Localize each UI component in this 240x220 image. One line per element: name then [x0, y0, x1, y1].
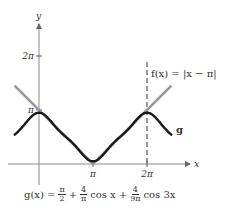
x-axis-label: x — [194, 159, 199, 169]
fraction-denominator: 2 — [59, 195, 64, 203]
series-g-line — [15, 113, 172, 162]
x-tick-label: π — [89, 169, 97, 179]
y-tick-label: 2π — [21, 51, 35, 61]
series-f-line — [15, 86, 172, 164]
f-label: f(x) = |x − π| — [151, 68, 217, 79]
plus-sign: + — [69, 189, 77, 200]
cos-3x-term: cos 3x — [143, 189, 175, 200]
fraction-4-over-9pi: 4 9π — [130, 186, 140, 203]
g-label: g — [176, 124, 183, 135]
formula-lhs: g(x) = — [24, 189, 55, 200]
fraction-denominator: π — [81, 195, 86, 203]
fraction-4-over-pi: 4 π — [80, 186, 87, 203]
y-axis-label: y — [35, 11, 42, 21]
fraction-pi-over-2: π 2 — [58, 186, 65, 203]
plus-sign: + — [119, 189, 127, 200]
cos-term: cos x — [90, 189, 116, 200]
fraction-denominator: 9π — [130, 195, 140, 203]
g-formula: g(x) = π 2 + 4 π cos x + 4 9π cos 3x — [24, 186, 175, 203]
x-tick-label: 2π — [140, 169, 154, 179]
